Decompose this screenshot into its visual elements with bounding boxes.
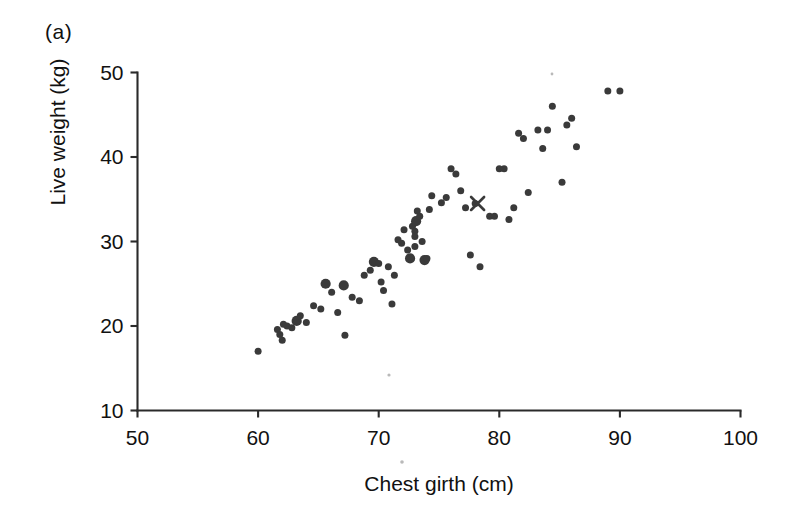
data-point [539, 145, 546, 152]
x-tick-label-90: 90 [608, 426, 631, 449]
y-tick-label-50: 50 [100, 61, 123, 84]
figure-panel: (a) Live weight (kg) Chest girth (cm) 10… [0, 0, 799, 531]
data-point [404, 246, 411, 253]
data-point [411, 233, 418, 240]
data-point [385, 263, 392, 270]
data-point [428, 192, 435, 199]
data-point [559, 179, 566, 186]
data-point [303, 319, 310, 326]
x-tick-label-100: 100 [723, 426, 758, 449]
data-point [563, 121, 570, 128]
data-point [375, 260, 382, 267]
scan-artifacts-group [387, 73, 553, 464]
data-point [544, 126, 551, 133]
data-point [405, 253, 415, 263]
scan-speck [551, 73, 554, 76]
data-point [339, 280, 349, 290]
data-point [520, 135, 527, 142]
data-point [457, 187, 464, 194]
data-point [279, 337, 286, 344]
data-point [477, 263, 484, 270]
data-point [426, 206, 433, 213]
data-point [328, 289, 335, 296]
data-point [349, 294, 356, 301]
data-point [525, 189, 532, 196]
data-point [334, 309, 341, 316]
data-point [255, 348, 262, 355]
data-point [604, 88, 611, 95]
data-point [515, 130, 522, 137]
data-point [341, 332, 348, 339]
data-point [616, 88, 623, 95]
data-point [367, 267, 374, 274]
axes-group [138, 73, 741, 411]
x-tick-label-60: 60 [246, 426, 269, 449]
data-point [510, 204, 517, 211]
data-point [391, 272, 398, 279]
data-point [398, 240, 405, 247]
data-point [573, 143, 580, 150]
data-point [549, 103, 556, 110]
data-point [297, 312, 304, 319]
data-point [310, 302, 317, 309]
data-point [505, 216, 512, 223]
data-point [388, 301, 395, 308]
data-point [401, 226, 408, 233]
y-tick-label-10: 10 [100, 399, 123, 422]
data-point [443, 194, 450, 201]
data-point [317, 306, 324, 313]
data-point [467, 252, 474, 259]
scan-speck [400, 460, 404, 464]
scatter-plot-canvas: 10203040505060708090100 [0, 0, 799, 531]
tick-labels-group: 10203040505060708090100 [100, 61, 758, 449]
data-point [491, 213, 498, 220]
data-point [501, 165, 508, 172]
data-point [448, 165, 455, 172]
data-point [416, 213, 423, 220]
data-points-group [255, 88, 624, 355]
data-point [411, 243, 418, 250]
tick-marks-group [131, 73, 741, 418]
x-tick-label-80: 80 [488, 426, 511, 449]
x-tick-label-50: 50 [126, 426, 149, 449]
data-point [452, 170, 459, 177]
data-point [380, 287, 387, 294]
data-point [438, 199, 445, 206]
data-point [419, 238, 426, 245]
x-tick-label-70: 70 [367, 426, 390, 449]
y-tick-label-20: 20 [100, 314, 123, 337]
data-point [361, 272, 368, 279]
data-point [423, 255, 430, 262]
data-point [462, 204, 469, 211]
data-point [568, 115, 575, 122]
data-point [378, 279, 385, 286]
data-point [356, 297, 363, 304]
data-point [321, 279, 331, 289]
y-tick-label-40: 40 [100, 145, 123, 168]
y-tick-label-30: 30 [100, 230, 123, 253]
scan-speck [387, 373, 390, 376]
data-point [534, 126, 541, 133]
